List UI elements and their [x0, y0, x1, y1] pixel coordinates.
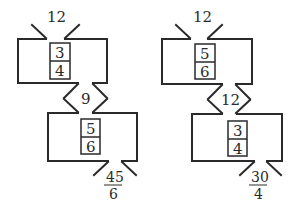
right-input-funnel-right [208, 25, 222, 38]
right-output-numerator: 30 [251, 169, 269, 185]
left-input-value: 12 [47, 8, 66, 26]
right-machine2-numerator: 3 [233, 122, 243, 140]
function-machine-diagram: 12 3 4 9 5 6 45 6 12 [0, 0, 300, 213]
left-machine2-denominator: 6 [86, 138, 96, 156]
right-output-funnel-right [267, 162, 281, 175]
right-input-funnel-left [176, 25, 190, 38]
right-intermediate-value: 12 [221, 91, 240, 109]
left-output-denominator: 6 [109, 186, 118, 202]
left-connector-lower-right [93, 99, 107, 112]
right-connector-lower-left [208, 100, 222, 113]
right-chain: 12 5 6 12 3 4 30 4 [162, 8, 282, 202]
right-machine2-denominator: 4 [233, 140, 243, 158]
left-output-funnel-right [122, 162, 136, 175]
left-machine1-outline-b [65, 39, 107, 83]
left-machine1-denominator: 4 [55, 62, 65, 80]
left-chain: 12 3 4 9 5 6 45 6 [18, 8, 137, 202]
left-connector-lower-left [64, 99, 78, 112]
right-machine1-denominator: 6 [200, 63, 210, 81]
left-connector-upper-left [64, 84, 78, 98]
right-machine1-numerator: 5 [200, 45, 210, 63]
left-intermediate-value: 9 [81, 90, 91, 108]
left-output-numerator: 45 [106, 169, 124, 185]
left-machine2-numerator: 5 [86, 120, 96, 138]
left-connector-upper-right [93, 84, 107, 98]
left-input-funnel-left [32, 25, 46, 38]
left-input-funnel-right [65, 25, 79, 38]
right-input-value: 12 [193, 8, 212, 26]
right-output-denominator: 4 [254, 186, 263, 202]
right-connector-upper-left [208, 85, 222, 99]
left-machine1-numerator: 3 [55, 44, 65, 62]
